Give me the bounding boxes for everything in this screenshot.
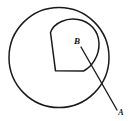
geometric-figure: B A xyxy=(0,0,128,121)
label-a: A xyxy=(117,108,124,117)
label-b: B xyxy=(73,36,80,46)
figure-canvas: B A xyxy=(0,0,128,121)
segment-b-to-a xyxy=(81,47,117,110)
